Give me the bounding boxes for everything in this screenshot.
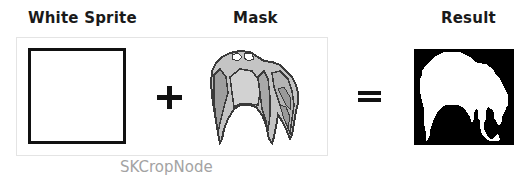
mask-title: Mask [233,9,278,27]
white-sprite-square [28,48,126,144]
equals-icon [358,91,381,103]
result-title: Result [441,9,496,27]
plus-icon [157,86,182,109]
mask-sprite [206,49,302,145]
result-image [414,49,514,145]
white-sprite-title: White Sprite [28,9,137,27]
skcropnode-caption: SKCropNode [120,158,213,176]
